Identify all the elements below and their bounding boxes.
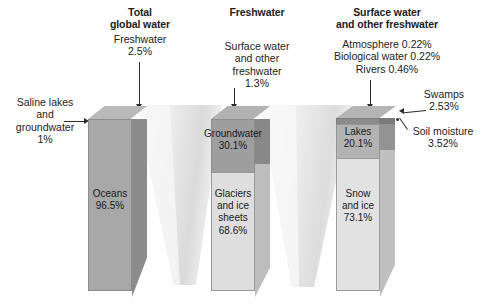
leader-line-freshwater <box>139 62 140 106</box>
bar3-label-snow: Snow and ice 73.1% <box>336 188 380 225</box>
column-1-heading: Total global water <box>90 6 190 31</box>
water-distribution-figure: Total global water Freshwater 2.5% Salin… <box>0 0 485 306</box>
bar3-label-lakes: Lakes 20.1% <box>336 126 380 150</box>
bar2-label-glaciers: Glaciers and ice sheets 68.6% <box>211 188 255 237</box>
column-3-heading: Surface water and other freshwater <box>312 6 462 31</box>
bar2-segment-glaciers-side <box>255 164 270 297</box>
bar1-segment-oceans-side <box>132 119 147 297</box>
leader-arrow-swamps <box>399 108 404 114</box>
bar2-label-groundwater: Groundwater 30.1% <box>199 128 267 152</box>
leader-line-atmosphere <box>370 80 371 106</box>
column-3-subheading: Atmosphere 0.22% Biological water 0.22% … <box>302 38 472 75</box>
column-2-heading: Freshwater <box>207 6 307 18</box>
callout-swamps: Swamps 2.53% <box>404 88 484 113</box>
callout-soil-moisture: Soil moisture 3.52% <box>402 125 484 150</box>
column-2-subheading: Surface water and other freshwater 1.3% <box>199 40 315 90</box>
bar1-label-oceans: Oceans 96.5% <box>88 188 132 212</box>
column-1-subheading: Freshwater 2.5% <box>90 33 190 58</box>
bar3-segment-snow-side <box>380 150 395 297</box>
leader-line-saline <box>64 121 86 122</box>
